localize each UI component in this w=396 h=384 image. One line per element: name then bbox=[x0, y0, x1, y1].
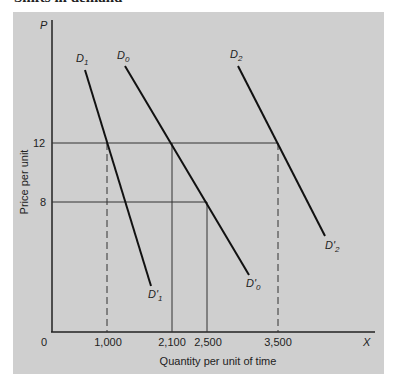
label-d0-prime: D'0 bbox=[246, 277, 261, 292]
label-d1-prime: D'1 bbox=[148, 288, 163, 303]
x-tick-0: 0 bbox=[41, 336, 47, 348]
y-axis-symbol: P bbox=[40, 19, 48, 31]
x-axis-title: Quantity per unit of time bbox=[160, 355, 277, 367]
x-tick-1000: 1,000 bbox=[94, 336, 122, 348]
label-d2-prime: D'2 bbox=[325, 239, 340, 254]
label-d2: D2 bbox=[230, 48, 243, 63]
y-axis-title: Price per unit bbox=[18, 150, 30, 215]
demand-curve-d1 bbox=[85, 70, 151, 286]
demand-curve-d2 bbox=[238, 66, 325, 236]
x-tick-3500: 3,500 bbox=[264, 336, 292, 348]
demand-curve-d0 bbox=[125, 66, 249, 275]
y-tick-12: 12 bbox=[33, 137, 45, 149]
label-d1: D1 bbox=[76, 52, 88, 67]
demand-chart: P X 12 8 0 1,000 2,100 2,500 3,500 Quant… bbox=[0, 0, 396, 384]
x-axis-symbol: X bbox=[362, 336, 371, 348]
x-tick-2100: 2,100 bbox=[158, 336, 186, 348]
y-tick-8: 8 bbox=[40, 196, 46, 208]
x-tick-2500: 2,500 bbox=[194, 336, 222, 348]
label-d0: D0 bbox=[117, 49, 130, 64]
